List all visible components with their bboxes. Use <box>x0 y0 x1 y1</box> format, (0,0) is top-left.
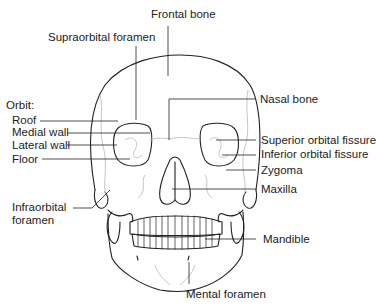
label-maxilla: Maxilla <box>261 183 297 196</box>
label-medial-wall: Medial wall <box>12 126 69 139</box>
label-mental-foramen: Mental foramen <box>186 288 266 301</box>
leader-infraorbital <box>73 190 110 208</box>
label-frontal-bone: Frontal bone <box>151 8 216 21</box>
label-lateral-wall: Lateral wall <box>12 139 70 152</box>
lower-teeth <box>132 234 220 249</box>
label-inferior-orbital-fissure: Inferior orbital fissure <box>261 148 368 161</box>
label-mandible: Mandible <box>263 233 310 246</box>
label-infraorbital-2: foramen <box>12 214 54 227</box>
label-infraorbital-1: Infraorbital <box>12 201 66 214</box>
leader-nasal-bone <box>169 99 255 140</box>
label-zygoma: Zygoma <box>261 164 303 177</box>
label-nasal-bone: Nasal bone <box>260 93 318 106</box>
right-orbit <box>200 123 238 166</box>
left-orbit <box>114 123 152 166</box>
label-floor: Floor <box>12 153 38 166</box>
mandible-outline <box>108 212 244 291</box>
label-supraorbital-foramen: Supraorbital foramen <box>48 31 155 44</box>
label-orbit-heading: Orbit: <box>6 99 34 112</box>
label-superior-orbital-fissure: Superior orbital fissure <box>261 134 376 147</box>
